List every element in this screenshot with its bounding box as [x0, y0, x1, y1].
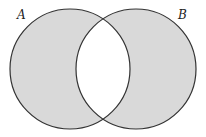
venn-svg — [0, 0, 206, 137]
set-a-label: A — [17, 9, 26, 21]
venn-diagram: A B — [0, 0, 206, 137]
set-b-label: B — [178, 9, 187, 21]
